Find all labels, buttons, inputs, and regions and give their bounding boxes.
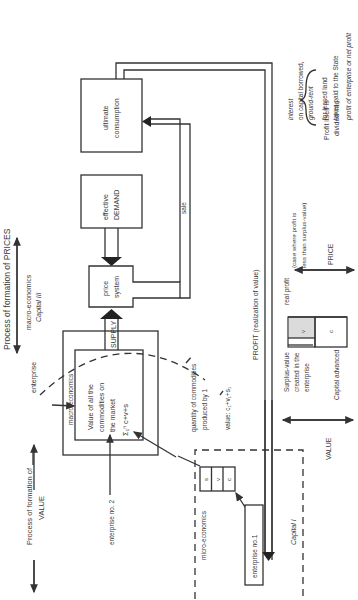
micro-pointer [178, 456, 200, 466]
prices-axis-label: Process of formation of PRICES [2, 228, 12, 350]
effective-demand-box: effective DEMAND [81, 175, 142, 228]
enterprise-no1-label: enterprise no.1 [251, 534, 259, 578]
bar-cell-v: v [300, 330, 306, 333]
demand-arrow [101, 228, 122, 266]
ultimate-consumption-line1: ultimate [102, 105, 109, 130]
quantity-line2: produced by 1 [201, 388, 209, 430]
case-line2: less than surplus-value) [300, 203, 307, 268]
capital-advanced-label: Capital advanced [333, 349, 341, 400]
economic-process-diagram: Process of formation of PRICES macro-eco… [0, 0, 358, 600]
price-system-line2: system [113, 276, 121, 298]
quantity-annotation: quantity of commodities produced by 1 va… [186, 355, 231, 432]
micro-cells: s v c [200, 467, 235, 491]
supply-arrow: SUPPLY [100, 309, 123, 350]
value-axis-label-1: Process of formation of [25, 467, 34, 545]
macro-box-formula: Σ₁ⁿ c+v+s [121, 404, 130, 436]
micro-economics-label: micro-economics [200, 510, 207, 560]
sale-label: sale [180, 202, 187, 214]
value-label: VALUE [325, 437, 332, 460]
price-label: PRICE [327, 243, 334, 265]
supply-label: SUPPLY [110, 321, 117, 348]
ultimate-consumption-line2: consumption [113, 98, 121, 138]
quantity-value: value: c₁+v₁+s₁ [224, 386, 231, 430]
micro-cell-v: v [215, 478, 221, 481]
real-profit-label: real profit [283, 278, 291, 305]
enterprise-macro-pointer [134, 432, 176, 457]
surplus-line3: enterprise [303, 363, 311, 392]
macro-box-header: macro-economics [67, 373, 74, 425]
enterprise-no1-box: enterprise no.1 [236, 493, 263, 585]
price-system-line1: price [102, 281, 110, 296]
profit-item-net: profit of enterprise or net profit [345, 32, 353, 121]
sale-path: sale [142, 116, 190, 298]
quantity-line1: quantity of commodities [190, 363, 198, 432]
effective-demand-line2: DEMAND [113, 190, 120, 220]
value-axis-label-2: VALUE [37, 496, 46, 520]
ultimate-consumption-box: ultimate consumption [81, 79, 142, 152]
price-system-box: price system [89, 266, 180, 307]
capital-iii-label: Capital III [35, 292, 43, 322]
capital-i-label: Capital I [290, 519, 298, 545]
macro-economics-label: macro-economics [25, 274, 32, 330]
enterprise-label: enterprise [30, 362, 38, 393]
enterprise-no2: enterprise no. 2 [108, 435, 116, 545]
profit-item-interest: interest [287, 97, 294, 120]
surplus-line2: created in the [293, 352, 300, 392]
profit-item-taxes: taxes paid to the State [332, 55, 340, 120]
case-line1: (case where profit is [290, 213, 297, 268]
enterprise-boundary [40, 353, 205, 395]
profit-label: PROFIT (realization of value) [252, 269, 260, 360]
micro-cell-s: s [203, 478, 209, 481]
surplus-line1: Surplus-value [283, 352, 291, 392]
macro-box-line2: commodities on [98, 383, 105, 432]
macro-box-line1: Value of all the [87, 384, 94, 430]
value-axis: Process of formation of VALUE [25, 445, 46, 592]
macro-box-line3: the market [109, 399, 116, 432]
bar-cell-c: c [328, 330, 334, 333]
profit-item-capital: on capital borrowed, [297, 61, 305, 120]
profit-item-land: for leased land [321, 77, 328, 120]
effective-demand-line1: effective [102, 194, 109, 220]
micro-cell-c: c [226, 478, 232, 481]
profit-item-groundrent: ground-rent [307, 85, 315, 120]
value-price-bar: v c real profit Surplus-value created in… [283, 203, 354, 460]
enterprise-no2-label: enterprise no. 2 [108, 499, 116, 545]
profit-division: Profit itself is divided into: interest … [287, 32, 353, 140]
prices-axis: Process of formation of PRICES macro-eco… [2, 228, 43, 353]
micro-economics-box: micro-economics Capital I s v c enterpri… [134, 432, 303, 599]
